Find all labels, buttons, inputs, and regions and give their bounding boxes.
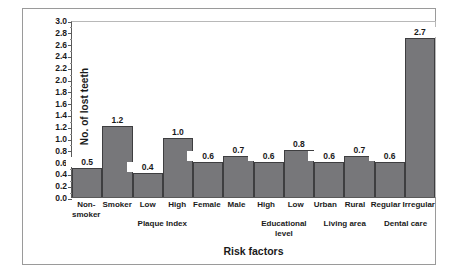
x-axis-group-label: Living area xyxy=(314,219,375,229)
x-axis-tick-label-line: Female xyxy=(193,200,221,210)
y-axis-tick-label: 1.4 xyxy=(55,110,67,121)
x-axis-tick-label: Rural xyxy=(340,200,370,219)
x-axis-tick-label-line: Rural xyxy=(341,200,369,210)
bar xyxy=(375,162,405,197)
x-axis-tick-label: Non-smoker xyxy=(71,200,101,219)
bar xyxy=(223,156,253,197)
x-axis-group-label: Plaque Index xyxy=(132,219,193,229)
bar xyxy=(254,162,284,197)
x-axis-tick-label: High xyxy=(162,200,192,219)
bar-cell: 0.4 xyxy=(133,22,163,197)
bar xyxy=(72,168,102,198)
bar-cell: 0.8 xyxy=(284,22,314,197)
bar xyxy=(193,162,223,197)
y-axis-tick-label: 2.6 xyxy=(55,40,67,51)
x-axis-tick-label: Regular xyxy=(370,200,402,219)
x-axis-tick-label: Female xyxy=(192,200,222,219)
x-axis-tick-label-line: Regular xyxy=(371,200,401,210)
y-axis-tick-label: 0.4 xyxy=(55,169,67,180)
x-axis-tick-label-line: smoker xyxy=(72,210,100,220)
y-axis-tick-label: 2.8 xyxy=(55,28,67,39)
x-axis-tick-label: Irregular xyxy=(402,200,436,219)
y-axis-tick-label: 2.2 xyxy=(55,63,67,74)
bar-cell: 0.5 xyxy=(72,22,102,197)
y-axis-tick-label: 0.2 xyxy=(55,181,67,192)
x-axis-tick-label-line: Low xyxy=(282,200,310,210)
x-axis-group-label: Educational level xyxy=(254,219,315,238)
x-axis-title: Risk factors xyxy=(71,245,436,257)
bar-cell: 2.7 xyxy=(405,22,435,197)
y-axis-tick-label: 3.0 xyxy=(55,16,67,27)
y-axis-tick-label: 1.8 xyxy=(55,87,67,98)
bar-cell: 0.6 xyxy=(193,22,223,197)
x-axis-tick-label: Male xyxy=(222,200,252,219)
bar xyxy=(344,156,374,197)
x-axis-tick-label-line: Low xyxy=(134,200,162,210)
bar-value-label: 2.7 xyxy=(399,27,441,37)
x-axis-tick-label-line: Urban xyxy=(311,200,339,210)
bar xyxy=(405,38,435,197)
bar-cell: 1.0 xyxy=(163,22,193,197)
x-axis-tick-label-line: Smoker xyxy=(102,200,131,210)
x-axis-tick-label-line: High xyxy=(252,200,280,210)
y-axis-tick-label: 2.4 xyxy=(55,51,67,62)
x-axis-tick-label: Low xyxy=(281,200,311,219)
x-axis-tick-label: Smoker xyxy=(101,200,132,219)
x-axis-tick-label-line: Male xyxy=(223,200,251,210)
chart-figure: No. of lost teeth 0.00.20.40.60.81.01.21… xyxy=(22,8,436,265)
bar xyxy=(314,162,344,197)
bar xyxy=(133,173,163,197)
x-axis-tick-label: High xyxy=(251,200,281,219)
y-axis-tick-label: 1.0 xyxy=(55,134,67,145)
bar xyxy=(163,138,193,197)
bar-cell: 0.6 xyxy=(375,22,405,197)
x-axis-tick-label: Urban xyxy=(310,200,340,219)
bar-series: 0.51.20.41.00.60.70.60.80.60.70.62.7 xyxy=(72,22,435,197)
y-axis-tick-label: 1.2 xyxy=(55,122,67,133)
bar-cell: 0.7 xyxy=(223,22,253,197)
y-axis-tick-label: 2.0 xyxy=(55,75,67,86)
y-axis-tick-label: 0.0 xyxy=(55,193,67,204)
plot-area: 0.00.20.40.60.81.01.21.41.61.82.02.22.42… xyxy=(71,21,436,198)
x-axis-tick-label-line: High xyxy=(163,200,191,210)
x-axis-group-label: Dental care xyxy=(375,219,436,229)
x-axis-tick-labels: Non-smokerSmokerLowHighFemaleMaleHighLow… xyxy=(71,200,436,219)
x-axis-tick-label-line: Non- xyxy=(72,200,100,210)
x-axis-tick-label: Low xyxy=(133,200,163,219)
x-axis-tick-label-line: Irregular xyxy=(403,200,435,210)
y-axis-tick-label: 1.6 xyxy=(55,99,67,110)
bar-cell: 0.6 xyxy=(254,22,284,197)
bar-cell: 0.6 xyxy=(314,22,344,197)
y-axis-tick-label: 0.8 xyxy=(55,146,67,157)
bar-cell: 0.7 xyxy=(344,22,374,197)
